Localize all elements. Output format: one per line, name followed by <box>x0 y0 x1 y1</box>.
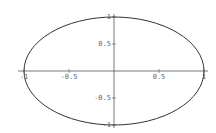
x-tick-label: -0.5 <box>61 73 78 81</box>
y-tick-label: 0.5 <box>98 40 111 48</box>
chart-canvas: -1 -0.5 0.5 1 1 0.5 -0.5 -1 <box>0 0 216 133</box>
y-tick-label: -0.5 <box>94 94 111 102</box>
x-tick-label: 0.5 <box>153 73 166 81</box>
x-axis: -1 -0.5 0.5 1 <box>18 69 208 81</box>
